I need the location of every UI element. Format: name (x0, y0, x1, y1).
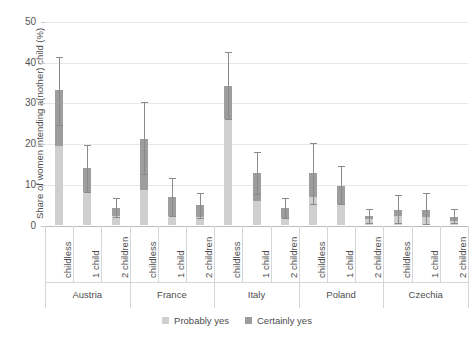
error-bar-line (313, 143, 314, 204)
x-axis-category-label: 1 child (261, 251, 271, 278)
x-axis-category-label: childless (232, 242, 242, 278)
bar-segment-probably-yes (140, 190, 148, 226)
legend-swatch-certainly-yes (245, 317, 252, 324)
error-bar-cap-upper (113, 198, 120, 199)
label-band-divider (45, 282, 468, 283)
error-bar-cap-lower (338, 204, 345, 205)
bar-segment-probably-yes (168, 216, 176, 225)
error-bar-cap-lower (113, 217, 120, 218)
gridline (45, 103, 468, 104)
x-axis-line (45, 226, 468, 227)
error-bar-cap-upper (254, 152, 261, 153)
x-axis-group-label: Italy (214, 290, 299, 300)
legend-label-certainly-yes: Certainly yes (257, 315, 312, 326)
error-bar-cap-upper (197, 193, 204, 194)
x-axis-category-label: 1 child (176, 251, 186, 278)
error-bar-cap-lower (197, 218, 204, 219)
gridline (45, 22, 468, 23)
error-bar-line (257, 152, 258, 194)
error-bar-line (172, 178, 173, 216)
x-axis-category-label: childless (317, 242, 327, 278)
y-axis-title: Share of women intending a(nother) child… (34, 19, 45, 229)
error-bar-cap-lower (141, 174, 148, 175)
x-axis-category-label: childless (402, 242, 412, 278)
axis-separator (101, 226, 102, 283)
legend-label-probably-yes: Probably yes (174, 315, 229, 326)
x-axis-group-label: Poland (299, 290, 384, 300)
axis-separator (186, 226, 187, 283)
legend-item-probably-yes: Probably yes (162, 315, 229, 326)
error-bar-cap-lower (310, 204, 317, 205)
error-bar-cap-upper (395, 195, 402, 196)
x-axis-group-label: Austria (45, 290, 130, 300)
x-axis-category-label: 2 children (120, 237, 130, 278)
x-axis-category-label: 1 child (430, 251, 440, 278)
error-bar-line (59, 57, 60, 125)
gridline (45, 144, 468, 145)
chart-figure: Share of women intending a(nother) child… (0, 0, 474, 337)
error-bar-cap-lower (169, 216, 176, 217)
error-bar-line (200, 193, 201, 218)
error-bar-cap-upper (338, 166, 345, 167)
bar-segment-probably-yes (55, 146, 63, 225)
error-bar-line (369, 209, 370, 222)
error-bar-line (228, 52, 229, 119)
x-axis-category-label: 2 children (373, 237, 383, 278)
axis-separator (468, 226, 469, 309)
error-bar-cap-lower (395, 223, 402, 224)
x-axis-group-label: Czechia (383, 290, 468, 300)
axis-separator (73, 226, 74, 283)
y-axis-tick-label: 20 (14, 139, 36, 149)
error-bar-line (341, 166, 342, 204)
bar-segment-probably-yes (281, 218, 289, 225)
y-axis-tick-label: 0 (14, 221, 36, 231)
bar-segment-probably-yes (224, 119, 232, 226)
error-bar-cap-upper (423, 193, 430, 194)
y-axis-tick-label: 10 (14, 180, 36, 190)
error-bar-cap-lower (84, 192, 91, 193)
error-bar-cap-upper (366, 209, 373, 210)
axis-separator (355, 226, 356, 283)
error-bar-cap-upper (282, 198, 289, 199)
error-bar-line (116, 198, 117, 218)
error-bar-cap-lower (282, 218, 289, 219)
error-bar-line (398, 195, 399, 224)
error-bar-cap-upper (169, 178, 176, 179)
error-bar-cap-lower (451, 223, 458, 224)
x-axis-category-label: 1 child (91, 251, 101, 278)
error-bar-cap-lower (254, 194, 261, 195)
error-bar-cap-upper (225, 52, 232, 53)
x-axis-category-label: childless (148, 242, 158, 278)
gridline (45, 63, 468, 64)
x-axis-group-label: France (130, 290, 215, 300)
bar-segment-probably-yes (83, 192, 91, 226)
error-bar-cap-upper (84, 145, 91, 146)
axis-separator (242, 226, 243, 283)
y-axis-tick-label: 30 (14, 98, 36, 108)
error-bar-line (144, 102, 145, 174)
error-bar-line (87, 145, 88, 192)
x-axis-category-label: 1 child (345, 251, 355, 278)
error-bar-cap-lower (56, 125, 63, 126)
error-bar-cap-upper (310, 143, 317, 144)
x-axis-category-label: 2 children (204, 237, 214, 278)
x-axis-category-label: 2 children (289, 237, 299, 278)
y-axis-tick-label: 40 (14, 58, 36, 68)
bar-segment-probably-yes (253, 201, 261, 225)
error-bar-cap-upper (141, 102, 148, 103)
x-axis-category-label: 2 children (458, 237, 468, 278)
chart-legend: Probably yes Certainly yes (0, 315, 474, 326)
error-bar-line (454, 209, 455, 223)
axis-separator (327, 226, 328, 283)
legend-swatch-probably-yes (162, 317, 169, 324)
x-axis-category-label: childless (63, 242, 73, 278)
error-bar-line (285, 198, 286, 218)
legend-item-certainly-yes: Certainly yes (245, 315, 312, 326)
error-bar-line (426, 193, 427, 225)
error-bar-cap-lower (225, 119, 232, 120)
error-bar-cap-lower (366, 223, 373, 224)
error-bar-cap-upper (451, 209, 458, 210)
error-bar-cap-upper (56, 57, 63, 58)
y-axis-tick-label: 50 (14, 17, 36, 27)
bar-segment-probably-yes (337, 204, 345, 226)
